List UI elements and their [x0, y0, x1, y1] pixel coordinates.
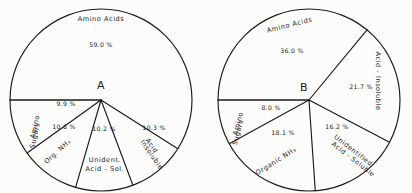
slice-label: Organic NH₃: [254, 146, 298, 177]
slice-label: Amino Acids: [266, 16, 313, 35]
pie-slice[interactable]: Amino Acids36.0 %: [266, 16, 313, 54]
pie-slice[interactable]: AcidInsoluble10.3 %: [138, 124, 165, 171]
slice-value-label: 9.9 %: [56, 100, 75, 107]
slice-label: Amino Acids: [78, 15, 125, 23]
pie-chart-b: Amino Acids36.0 %Acid - Insoluble21.7 %U…: [218, 9, 400, 191]
pie-slice-divider: [309, 100, 315, 191]
slice-value-label: 36.0 %: [280, 47, 303, 54]
slice-value-label: 18.1 %: [271, 129, 294, 136]
chart-letter-label: A: [97, 79, 105, 92]
slice-label: Unident.: [89, 156, 121, 164]
pie-slice[interactable]: Organic NH₃18.1 %: [254, 129, 298, 177]
slice-value-label: 10.6 %: [52, 123, 75, 130]
pie-slice[interactable]: Amino Acids59.0 %: [78, 15, 125, 48]
pie-slice[interactable]: Acid - Insoluble21.7 %: [349, 51, 382, 110]
slice-value-label: 10.2 %: [92, 125, 115, 132]
pie-charts-svg: Amino Acids59.0 %AcidInsoluble10.3 %Unid…: [0, 0, 412, 193]
figure-canvas: Amino Acids59.0 %AcidInsoluble10.3 %Unid…: [0, 0, 412, 193]
slice-value-label: 16.2 %: [325, 123, 348, 130]
slice-value-label: 8.0 %: [261, 104, 280, 111]
slice-label-line2: Sugars: [231, 119, 245, 146]
pie-slice[interactable]: Org. NH₃10.6 %: [43, 123, 76, 166]
pie-chart-a: Amino Acids59.0 %AcidInsoluble10.3 %Unid…: [10, 9, 192, 191]
slice-value-label: 21.7 %: [349, 83, 372, 90]
slice-value-label: 59.0 %: [89, 41, 112, 48]
pie-slice[interactable]: AminoSugars8.0 %: [231, 104, 281, 146]
chart-letter-label: B: [300, 81, 308, 94]
slice-value-label: 10.3 %: [142, 124, 165, 131]
slice-label: Org. NH₃: [43, 137, 73, 165]
pie-slice-divider: [76, 100, 101, 187]
slice-label: Acid - Insoluble: [374, 51, 382, 110]
slice-label-line2: Acid - Sol.: [86, 165, 125, 173]
